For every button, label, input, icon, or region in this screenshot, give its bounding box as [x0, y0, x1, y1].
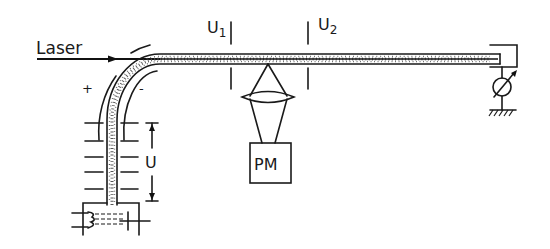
- column-plates: [85, 123, 138, 189]
- ground-icon: [489, 110, 516, 116]
- u1-label-main: U: [207, 18, 219, 37]
- bent-tube: [107, 54, 500, 205]
- u1-label: U1: [207, 18, 226, 40]
- reservoir: [72, 203, 150, 235]
- tube-end-assembly: [489, 45, 517, 116]
- detection-optics: PM: [242, 64, 294, 183]
- u2-label: U2: [318, 15, 337, 37]
- focus-right: [275, 99, 287, 143]
- experimental-setup-diagram: Laser + - U1 U2: [0, 0, 550, 249]
- focus-left: [250, 99, 262, 143]
- deflector-plus-arc-top: [131, 45, 150, 53]
- tube-outer-wall: [107, 54, 500, 205]
- heater-coil-icon: [88, 212, 94, 228]
- dim-down-arrow: [149, 193, 155, 200]
- laser-arrowhead: [108, 56, 118, 63]
- u2-label-main: U: [318, 15, 330, 34]
- tube-particles-2: [110, 57, 491, 201]
- voltage-dimension: U: [145, 123, 158, 201]
- tube-particles-3: [115, 62, 491, 203]
- u-voltage-label: U: [145, 153, 157, 172]
- electrode-u2: U2: [308, 15, 337, 89]
- pm-label: PM: [254, 155, 277, 174]
- tube-particles: [112, 59, 490, 205]
- plus-label: +: [82, 81, 93, 96]
- minus-label: -: [139, 81, 144, 96]
- u2-label-sub: 2: [330, 23, 338, 37]
- laser-label: Laser: [36, 38, 82, 58]
- dim-up-arrow: [149, 124, 155, 131]
- u1-label-sub: 1: [219, 26, 227, 40]
